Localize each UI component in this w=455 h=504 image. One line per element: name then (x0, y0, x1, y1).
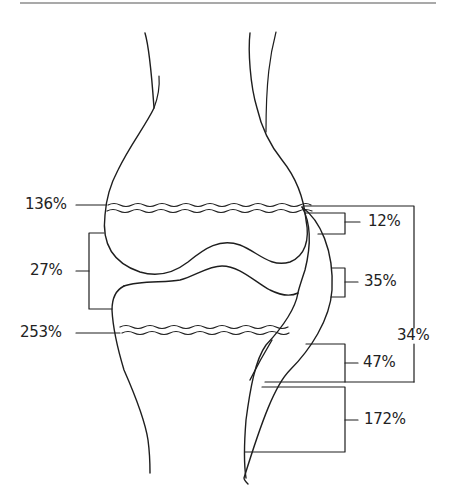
knee-joint-diagram (0, 0, 455, 504)
femur-left-contour (104, 33, 307, 274)
growth-plate-lower-line1 (120, 326, 288, 329)
capsule-crescent (244, 207, 332, 484)
bracket-47 (306, 344, 345, 382)
bracket-35 (331, 268, 345, 297)
tibia-right-contour (250, 340, 272, 380)
growth-plate-lower-line2 (122, 332, 289, 335)
tibia-plateau (124, 266, 298, 295)
label-joint-cartilage: 27% (30, 263, 62, 278)
label-growth-plate-upper: 136% (25, 197, 67, 212)
growth-plate-upper-line1 (108, 204, 311, 207)
tibia-contour (112, 286, 150, 473)
label-region-total: 34% (397, 328, 429, 343)
capsule-crescent-inner (245, 207, 310, 478)
label-region-c: 47% (363, 355, 395, 370)
label-region-d: 172% (364, 412, 406, 427)
label-region-b: 35% (364, 274, 396, 289)
femur-left-branch (154, 76, 159, 108)
label-region-a: 12% (368, 214, 400, 229)
femur-right-branch (266, 32, 276, 132)
growth-plate-upper-line2 (107, 210, 312, 213)
bracket-172 (245, 387, 345, 452)
label-growth-plate-lower: 253% (20, 325, 62, 340)
